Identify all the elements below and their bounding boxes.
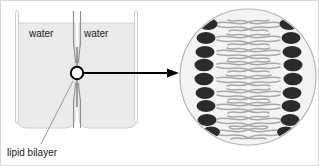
outer-left-wall bbox=[16, 11, 19, 123]
lipid-head bbox=[282, 100, 301, 112]
lipid-head bbox=[195, 59, 214, 72]
water-label-left: water bbox=[29, 28, 53, 39]
lipid-head bbox=[196, 87, 215, 99]
lipid-head bbox=[283, 46, 302, 58]
lipid-head bbox=[195, 73, 214, 86]
lipid-head bbox=[282, 32, 301, 44]
water-label-right: water bbox=[84, 28, 108, 39]
lipid-bilayer-figure: water water lipid bilayer bbox=[0, 0, 319, 166]
lipid-head bbox=[284, 73, 303, 86]
lipid-head bbox=[283, 87, 302, 99]
lipid-head bbox=[202, 126, 220, 137]
lipid-head bbox=[284, 59, 303, 72]
lipid-head bbox=[197, 100, 216, 112]
lipid-head bbox=[196, 46, 215, 58]
lipid-bilayer-caption: lipid bilayer bbox=[7, 147, 57, 158]
figure-canvas bbox=[1, 1, 319, 166]
lipid-head bbox=[197, 32, 216, 44]
bilayer-marker-circle bbox=[71, 67, 83, 79]
callout-arrow-head bbox=[167, 69, 179, 78]
magnified-bilayer-group bbox=[180, 9, 316, 145]
outer-right-wall bbox=[135, 11, 138, 123]
